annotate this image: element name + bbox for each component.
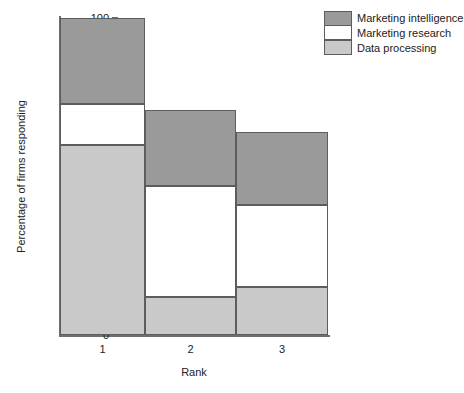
x-tick-label: 3 xyxy=(236,341,328,357)
bar-segment xyxy=(60,145,145,335)
x-tick-label: 1 xyxy=(60,341,145,357)
legend-item: Data processing xyxy=(324,41,463,56)
bar-group xyxy=(145,18,236,335)
bar-segment xyxy=(145,110,236,186)
bar-segment xyxy=(236,205,328,287)
bar-segment xyxy=(236,132,328,205)
y-axis-title-text: Percentage of firms responding xyxy=(12,18,30,335)
x-tick-label: 2 xyxy=(145,341,236,357)
bar-segment xyxy=(60,18,145,104)
bar-segment xyxy=(236,287,328,335)
legend-label: Marketing intelligence xyxy=(357,11,463,26)
bars-layer xyxy=(60,18,328,335)
legend-swatch xyxy=(324,25,352,40)
x-axis-line xyxy=(59,335,330,337)
bar-segment xyxy=(60,104,145,145)
x-axis-title: Rank xyxy=(60,364,328,380)
legend-swatch xyxy=(324,40,352,55)
bar-segment xyxy=(145,297,236,335)
legend-label: Marketing research xyxy=(357,26,451,41)
legend-label: Data processing xyxy=(357,41,437,56)
stacked-bar-chart: Percentage of firms responding 020406080… xyxy=(0,0,464,393)
bar-segment xyxy=(145,186,236,297)
bar-group xyxy=(60,18,145,335)
chart-legend: Marketing intelligenceMarketing research… xyxy=(324,11,463,56)
legend-item: Marketing intelligence xyxy=(324,11,463,26)
bar-group xyxy=(236,18,328,335)
legend-swatch xyxy=(324,11,352,26)
legend-item: Marketing research xyxy=(324,26,463,41)
